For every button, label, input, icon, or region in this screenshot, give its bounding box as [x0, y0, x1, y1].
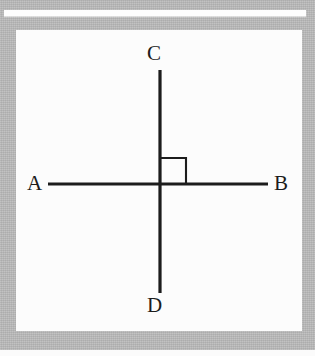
screenshot-canvas: C D A B [0, 0, 315, 356]
figure-panel: C D A B [16, 30, 302, 331]
point-label-a: A [27, 173, 42, 194]
point-label-d: D [147, 295, 162, 316]
perpendicular-lines-diagram [16, 30, 302, 331]
bottom-white-stripe [0, 350, 315, 356]
top-white-stripe [4, 10, 306, 16]
point-label-c: C [147, 43, 161, 64]
point-label-b: B [274, 173, 288, 194]
right-angle-marker-icon [160, 158, 186, 184]
